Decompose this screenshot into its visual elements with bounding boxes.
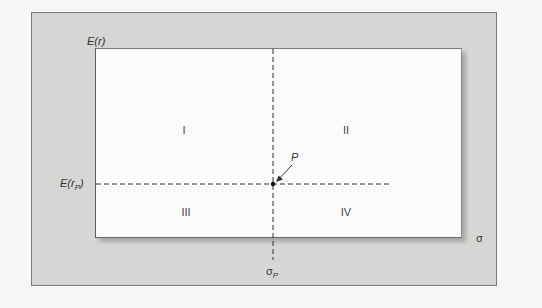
- quadrant-iii-label: III: [181, 206, 190, 218]
- expected-return-p-label: E(rP): [60, 177, 84, 189]
- portfolio-point-p: [271, 182, 275, 186]
- point-p-label: P: [291, 151, 298, 163]
- quadrant-iv-label: IV: [341, 206, 351, 218]
- expected-return-p-close: ): [80, 177, 84, 189]
- sigma-p-main: σ: [266, 265, 273, 277]
- quadrant-i-label: I: [182, 124, 185, 136]
- expected-return-p-main: E(r: [60, 177, 75, 189]
- sigma-p-sub: P: [273, 271, 278, 280]
- x-axis-label: σ: [476, 232, 483, 244]
- diagram-lines: [0, 0, 542, 308]
- sigma-p-label: σP: [266, 265, 278, 277]
- quadrant-ii-label: II: [343, 124, 349, 136]
- expected-return-p-sub: P: [75, 183, 80, 192]
- y-axis-label: E(r): [87, 35, 105, 47]
